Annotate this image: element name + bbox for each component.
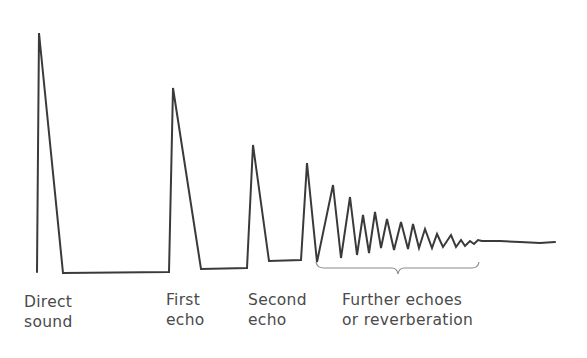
- label-further-echoes: Further echoes or reverberation: [342, 290, 473, 330]
- label-further-echoes-line1: Further echoes: [342, 290, 473, 310]
- label-first-echo-line1: First: [166, 290, 205, 310]
- label-direct-sound: Direct sound: [24, 292, 73, 332]
- label-second-echo: Second echo: [248, 290, 307, 330]
- sound-waveform: [37, 33, 555, 273]
- label-direct-line2: sound: [24, 312, 73, 332]
- label-first-echo: First echo: [166, 290, 205, 330]
- label-further-echoes-line2: or reverberation: [342, 310, 473, 330]
- label-first-echo-line2: echo: [166, 310, 205, 330]
- label-direct-line1: Direct: [24, 292, 73, 312]
- label-second-echo-line2: echo: [248, 310, 307, 330]
- label-second-echo-line1: Second: [248, 290, 307, 310]
- reverberation-brace: [316, 262, 479, 274]
